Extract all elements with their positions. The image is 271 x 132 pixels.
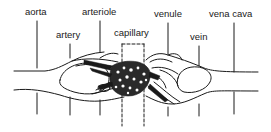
vein-outer-top — [146, 54, 258, 72]
vessel-drawing — [0, 0, 271, 132]
blood-vessel-diagram: aorta artery arteriole capillary venule … — [0, 0, 271, 132]
capillary-bed — [84, 60, 168, 102]
vein-inner-loop — [177, 67, 211, 93]
